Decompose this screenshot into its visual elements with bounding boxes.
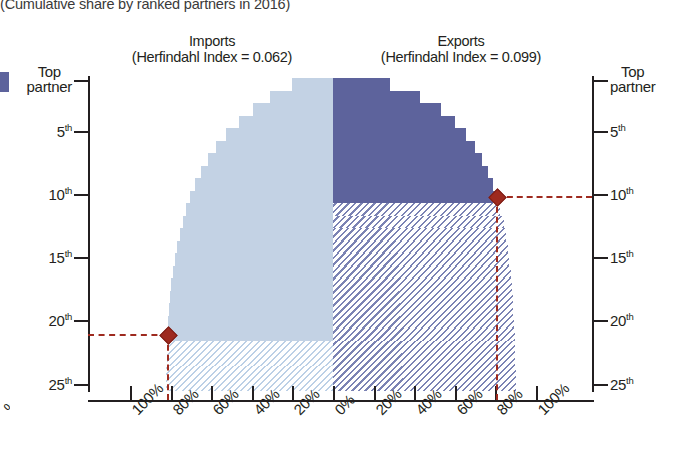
bar-exports-rank-13	[333, 228, 506, 241]
chart-caption: (Cumulative share by ranked partners in …	[0, 0, 420, 12]
bar-exports-rank-23	[333, 353, 515, 366]
rank-tick-5-left	[74, 131, 88, 133]
bar-imports-rank-12	[183, 216, 333, 229]
bar-exports-rank-3	[333, 103, 441, 116]
exports-panel-title: Exports (Herfindahl Index = 0.099)	[336, 33, 586, 65]
bar-imports-rank-10	[190, 191, 333, 204]
x-tick-6	[374, 386, 376, 400]
bar-exports-rank-25	[333, 378, 516, 391]
bar-exports-rank-18	[333, 291, 513, 304]
rank-tick-15-left	[74, 257, 88, 259]
x-tick-4	[292, 386, 294, 400]
imports-herfindahl-label: (Herfindahl Index = 0.062)	[92, 49, 332, 65]
x-label-100pct-10: 100%	[534, 380, 572, 418]
bar-exports-rank-15	[333, 253, 509, 266]
marker-leader-horizontal-exports	[497, 196, 592, 198]
x-tick-8	[455, 386, 457, 400]
rank-label-10-left: 10th	[49, 185, 72, 203]
imports-title-label: Imports	[92, 33, 332, 49]
bar-exports-rank-16	[333, 266, 511, 279]
rank-axis-right: Toppartner5th10th15th20th25th	[592, 76, 594, 392]
rank-label-25-right: 25th	[610, 375, 633, 393]
bar-imports-rank-19	[169, 303, 333, 316]
rank-label-25-left: 25th	[49, 375, 72, 393]
bar-exports-rank-24	[333, 366, 516, 379]
rank-label-20-right: 20th	[610, 311, 633, 329]
bar-exports-rank-10	[333, 191, 497, 204]
rank-label-top-partner-left: Toppartner	[27, 64, 72, 94]
bar-imports-rank-18	[170, 291, 333, 304]
bar-exports-rank-5	[333, 128, 466, 141]
chart-plot-area	[130, 78, 536, 391]
percentage-axis: 100%80%60%40%20%0%20%40%60%80%100%	[88, 400, 594, 402]
bar-exports-rank-21	[333, 328, 515, 341]
x-label-0pct-5: 0%	[331, 391, 358, 418]
rank-tick-10-left	[74, 194, 88, 196]
x-tick-2	[211, 386, 213, 400]
x-tick-10	[536, 386, 538, 400]
bar-imports-rank-5	[226, 128, 333, 141]
bar-imports-rank-16	[173, 266, 333, 279]
exports-bars-group	[333, 78, 536, 391]
bar-imports-rank-23	[167, 353, 333, 366]
rank-tick-20-left	[74, 320, 88, 322]
rank-label-top-partner-right: Toppartner	[610, 64, 655, 94]
bar-imports-rank-13	[180, 228, 333, 241]
marker-leader-horizontal-imports	[88, 334, 168, 336]
bar-imports-rank-3	[253, 103, 333, 116]
bar-imports-rank-1	[292, 78, 333, 91]
bar-exports-rank-4	[333, 116, 455, 129]
rank-label-10-right: 10th	[610, 185, 633, 203]
bar-exports-rank-11	[333, 203, 500, 216]
rank-label-20-left: 20th	[49, 311, 72, 329]
bar-exports-rank-14	[333, 241, 508, 254]
rank-axis-left: Toppartner5th10th15th20th25th	[88, 76, 90, 392]
legend-color-swatch	[0, 72, 9, 92]
x-tick-7	[414, 386, 416, 400]
rank-tick-10-right	[594, 194, 608, 196]
rank-tick-1-right	[594, 80, 608, 82]
bar-imports-rank-7	[208, 153, 333, 166]
x-tick-5	[333, 386, 335, 400]
bar-exports-rank-1	[333, 78, 390, 91]
bar-imports-rank-14	[177, 241, 333, 254]
bar-imports-rank-11	[186, 203, 333, 216]
bar-imports-rank-21	[168, 328, 333, 341]
x-tick-0	[130, 386, 132, 400]
bar-exports-rank-2	[333, 91, 420, 104]
bar-imports-rank-2	[270, 91, 333, 104]
bar-exports-rank-22	[333, 341, 515, 354]
imports-bars-group	[130, 78, 333, 391]
bar-imports-rank-17	[171, 278, 333, 291]
rank-tick-25-left	[74, 384, 88, 386]
rank-label-5-right: 5th	[610, 122, 625, 140]
bar-exports-rank-8	[333, 166, 488, 179]
rank-tick-25-right	[594, 384, 608, 386]
bar-exports-rank-6	[333, 141, 475, 154]
bar-imports-rank-20	[168, 316, 333, 329]
bar-exports-rank-12	[333, 216, 504, 229]
x-tick-1	[171, 386, 173, 400]
rank-tick-1-left	[74, 80, 88, 82]
imports-panel-title: Imports (Herfindahl Index = 0.062)	[92, 33, 332, 65]
bar-imports-rank-4	[239, 116, 333, 129]
exports-herfindahl-label: (Herfindahl Index = 0.099)	[336, 49, 586, 65]
x-tick-3	[252, 386, 254, 400]
rank-tick-20-right	[594, 320, 608, 322]
rank-label-15-right: 15th	[610, 248, 633, 266]
bar-exports-rank-19	[333, 303, 513, 316]
exports-title-label: Exports	[336, 33, 586, 49]
clipped-axis-fragment: %	[0, 404, 10, 426]
bar-exports-rank-7	[333, 153, 482, 166]
bar-imports-rank-24	[166, 366, 333, 379]
bar-imports-rank-15	[175, 253, 333, 266]
bar-imports-rank-8	[201, 166, 333, 179]
rank-tick-15-right	[594, 257, 608, 259]
rank-label-15-left: 15th	[49, 248, 72, 266]
bar-exports-rank-17	[333, 278, 512, 291]
rank-label-5-left: 5th	[57, 122, 72, 140]
bar-imports-rank-22	[167, 341, 333, 354]
rank-tick-5-right	[594, 131, 608, 133]
bar-imports-rank-6	[216, 141, 333, 154]
marker-leader-vertical-exports	[496, 197, 498, 400]
